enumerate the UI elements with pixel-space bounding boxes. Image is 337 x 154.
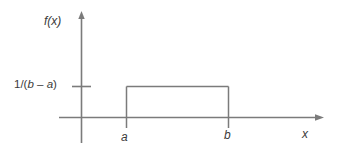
- y-tick-label-density-height: 1/(b – a): [14, 79, 57, 91]
- x-axis: [59, 114, 324, 121]
- y-axis-arrowhead: [78, 11, 84, 19]
- y-tick-label-prefix: 1/(: [14, 78, 27, 90]
- y-tick-label-suffix: ): [53, 78, 57, 90]
- uniform-density-rectangle: [127, 87, 229, 129]
- y-axis-label: f(x): [44, 15, 61, 27]
- uniform-distribution-figure: f(x) 1/(b – a) a b x: [0, 0, 337, 154]
- y-axis: [78, 11, 84, 143]
- x-tick-label-a: a: [121, 131, 128, 143]
- x-axis-arrowhead: [315, 114, 324, 121]
- y-tick-label-minus: –: [34, 78, 47, 90]
- x-axis-label: x: [302, 128, 308, 140]
- x-tick-label-b: b: [224, 129, 231, 141]
